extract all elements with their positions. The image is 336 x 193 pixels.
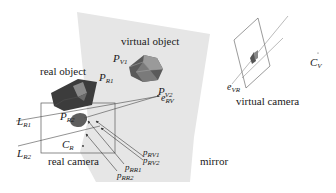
label-real-camera: real camera [48,155,99,167]
symbol-e-VR: eVR [227,81,241,94]
label-real-object: real object [40,65,86,77]
label-virtual-object: virtual object [121,35,179,47]
symbol-L-R2: LR2 [16,147,31,161]
label-virtual-camera: virtual camera [236,95,299,107]
diagram-canvas: virtual object real object real camera v… [0,0,336,193]
symbol-C-R: CR [62,138,74,152]
label-mirror: mirror [200,155,228,167]
virtual-camera [232,16,319,88]
symbol-L-R1: LR1 [16,115,31,129]
symbol-C-V: CV [310,56,322,70]
